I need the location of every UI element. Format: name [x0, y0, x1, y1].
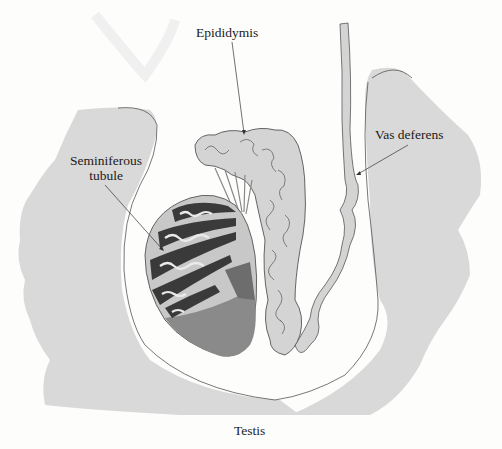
right-thigh-tissue [290, 68, 481, 415]
label-testis: Testis [234, 423, 265, 438]
label-seminiferous-line2: tubule [66, 168, 146, 183]
label-vas-deferens: Vas deferens [375, 127, 444, 142]
epididymis-leader-line [232, 42, 244, 133]
vas-deferens-arrowhead [356, 171, 361, 175]
anatomy-illustration [0, 0, 502, 449]
label-epididymis: Epididymis [196, 25, 258, 40]
label-seminiferous-line1: Seminiferous [66, 153, 146, 168]
faint-background-shape [95, 15, 175, 75]
label-seminiferous-tubule: Seminiferous tubule [66, 153, 146, 183]
testis [145, 195, 257, 357]
